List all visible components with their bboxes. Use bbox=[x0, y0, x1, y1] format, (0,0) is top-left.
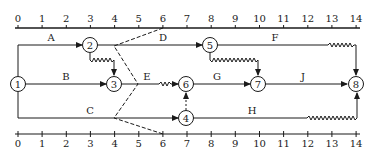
node-label: 6 bbox=[183, 79, 189, 90]
top-tick-label: 9 bbox=[232, 13, 238, 24]
activity-A bbox=[18, 45, 82, 76]
bottom-tick-label: 0 bbox=[15, 138, 21, 149]
bottom-tick-label: 14 bbox=[350, 138, 363, 149]
top-tick-label: 11 bbox=[277, 13, 290, 24]
top-tick-label: 14 bbox=[350, 13, 363, 24]
top-time-axis: 01234567891011121314 bbox=[15, 13, 363, 28]
label-J: J bbox=[300, 71, 305, 82]
bottom-tick-label: 13 bbox=[326, 138, 339, 149]
bottom-tick-label: 8 bbox=[208, 138, 214, 149]
bottom-tick-label: 10 bbox=[253, 138, 266, 149]
node-7: 7 bbox=[251, 77, 266, 92]
node-1: 1 bbox=[11, 77, 26, 92]
dummy-2-3 bbox=[90, 53, 114, 75]
node-label: 3 bbox=[111, 79, 117, 90]
node-2: 2 bbox=[83, 38, 98, 53]
top-tick-label: 0 bbox=[15, 13, 21, 24]
activity-E bbox=[121, 82, 178, 86]
node-label: 5 bbox=[207, 40, 213, 51]
node-6: 6 bbox=[179, 77, 194, 92]
label-E: E bbox=[143, 71, 150, 82]
node-label: 1 bbox=[15, 79, 21, 90]
top-tick-label: 1 bbox=[39, 13, 45, 24]
bottom-tick-label: 12 bbox=[301, 138, 314, 149]
bottom-tick-label: 9 bbox=[232, 138, 238, 149]
node-label: 8 bbox=[353, 79, 359, 90]
bottom-tick-label: 11 bbox=[277, 138, 290, 149]
label-F: F bbox=[272, 32, 279, 43]
label-D: D bbox=[159, 32, 167, 43]
top-tick-label: 4 bbox=[111, 13, 117, 24]
top-tick-label: 13 bbox=[326, 13, 339, 24]
top-tick-label: 7 bbox=[184, 13, 190, 24]
node-4: 4 bbox=[179, 111, 194, 126]
top-tick-label: 5 bbox=[136, 13, 142, 24]
bottom-tick-label: 7 bbox=[184, 138, 190, 149]
label-A: A bbox=[46, 32, 55, 43]
activity-H bbox=[193, 93, 357, 120]
bottom-tick-label: 4 bbox=[111, 138, 117, 149]
label-C: C bbox=[86, 105, 94, 116]
bottom-tick-label: 5 bbox=[136, 138, 142, 149]
top-tick-label: 2 bbox=[63, 13, 69, 24]
label-H: H bbox=[248, 105, 257, 116]
node-8: 8 bbox=[349, 77, 364, 92]
network-diagram: 01234567891011121314 0123456789101112131… bbox=[0, 0, 372, 156]
bottom-tick-label: 6 bbox=[160, 138, 166, 149]
bottom-time-axis: 01234567891011121314 bbox=[15, 131, 363, 149]
bottom-tick-label: 3 bbox=[87, 138, 93, 149]
top-tick-label: 3 bbox=[87, 13, 93, 24]
node-label: 2 bbox=[87, 40, 93, 51]
node-label: 7 bbox=[255, 79, 261, 90]
top-tick-label: 8 bbox=[208, 13, 214, 24]
top-tick-label: 12 bbox=[301, 13, 314, 24]
bottom-tick-label: 1 bbox=[39, 138, 45, 149]
node-3: 3 bbox=[107, 77, 122, 92]
bottom-tick-label: 2 bbox=[63, 138, 69, 149]
label-B: B bbox=[62, 71, 69, 82]
activity-C bbox=[18, 92, 178, 118]
node-label: 4 bbox=[183, 113, 189, 124]
label-G: G bbox=[213, 71, 221, 82]
node-5: 5 bbox=[203, 38, 218, 53]
top-tick-label: 10 bbox=[253, 13, 266, 24]
top-tick-label: 6 bbox=[160, 13, 166, 24]
